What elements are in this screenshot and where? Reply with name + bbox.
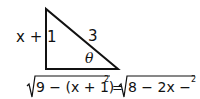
side-label-x-plus-1: x + 1 [16,30,57,45]
equals-sign: = [112,80,123,95]
right-triangle [46,9,118,69]
hypotenuse-label: 3 [88,29,98,44]
lhs-exponent: 2 [104,75,109,84]
angle-theta-label: θ [85,51,93,65]
lhs-radicand: 9 − (x + 1) [36,79,114,95]
rhs-exponent: 2 [191,75,196,84]
rhs-radicand: 8 − 2x − x [128,79,200,99]
side-label-text: x + 1 [16,28,57,46]
